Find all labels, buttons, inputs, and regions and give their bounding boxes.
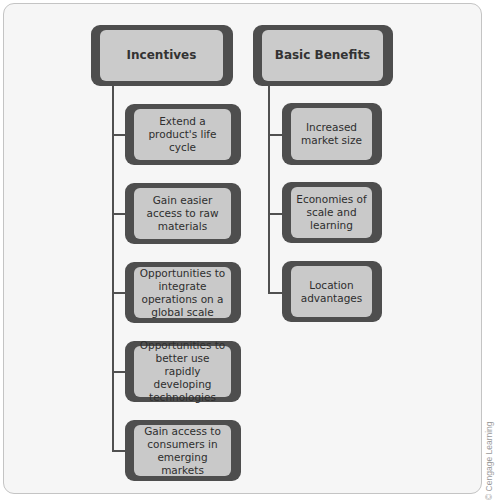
basic-benefits-header-node: Basic Benefits (253, 25, 393, 86)
benefit-node-2: Economies of scale and learning (282, 182, 382, 243)
benefits-connector-1 (268, 134, 283, 136)
incentives-connector-4 (112, 371, 126, 373)
benefit-node-1: Increased market size (282, 103, 382, 165)
incentive-node-3: Opportunities to integrate operations on… (125, 262, 241, 323)
benefits-connector-3 (268, 292, 283, 294)
incentive-node-1: Extend a product's life cycle (125, 104, 241, 165)
incentives-header-label: Incentives (100, 30, 223, 81)
incentive-label-5: Gain access to consumers in emerging mar… (134, 425, 231, 476)
incentive-label-4: Opportunities to better use rapidly deve… (134, 346, 231, 397)
benefit-label-3: Location advantages (291, 266, 372, 317)
benefits-connector-2 (268, 213, 283, 215)
incentive-node-4: Opportunities to better use rapidly deve… (125, 341, 241, 402)
incentive-label-2: Gain easier access to raw materials (134, 188, 231, 239)
diagram-frame (3, 3, 482, 494)
incentives-connector-2 (112, 213, 126, 215)
benefit-label-1: Increased market size (291, 108, 372, 160)
incentives-vertical-connector (112, 86, 114, 451)
copyright-credit: © Cengage Learning (484, 421, 494, 500)
incentive-label-1: Extend a product's life cycle (134, 109, 231, 160)
benefit-node-3: Location advantages (282, 261, 382, 322)
incentives-header-node: Incentives (91, 25, 233, 86)
benefits-vertical-connector (268, 86, 270, 293)
incentive-label-3: Opportunities to integrate operations on… (134, 267, 231, 318)
incentives-connector-3 (112, 292, 126, 294)
basic-benefits-header-label: Basic Benefits (262, 30, 383, 81)
incentives-connector-1 (112, 134, 126, 136)
benefit-label-2: Economies of scale and learning (291, 187, 372, 238)
incentive-node-2: Gain easier access to raw materials (125, 183, 241, 244)
incentive-node-5: Gain access to consumers in emerging mar… (125, 420, 241, 481)
incentives-connector-5 (112, 450, 126, 452)
